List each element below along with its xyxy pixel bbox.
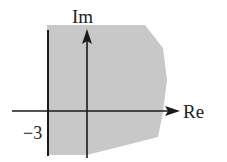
complex-plane-diagram: Im Re −3 <box>0 0 227 162</box>
re-axis-label: Re <box>183 101 204 122</box>
im-axis-label: Im <box>72 6 93 27</box>
shaded-region <box>47 25 167 155</box>
minus-three-label: −3 <box>23 123 42 143</box>
